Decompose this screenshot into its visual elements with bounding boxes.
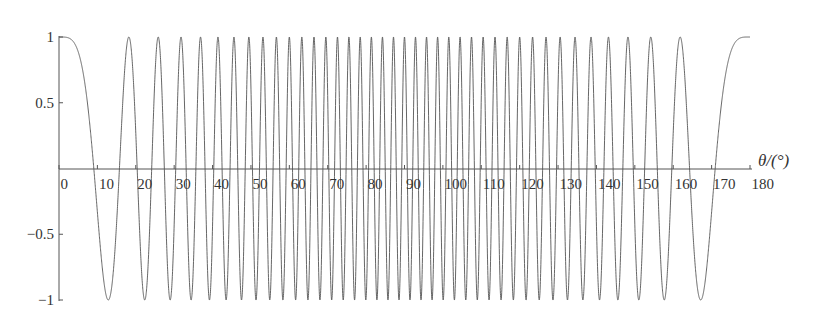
x-tick-label: 130 [560, 176, 583, 192]
x-tick-label: 160 [675, 176, 698, 192]
x-tick-label: 170 [713, 176, 736, 192]
x-tick-label: 60 [291, 176, 306, 192]
x-tick-label: 150 [636, 176, 659, 192]
x-tick-label: 140 [598, 176, 621, 192]
y-tick-label: 0.5 [35, 95, 54, 111]
x-tick-label: 180 [752, 176, 775, 192]
x-tick-label: 90 [406, 176, 421, 192]
x-tick-label: 100 [444, 176, 467, 192]
x-tick-label: 30 [176, 176, 191, 192]
x-tick-label: 120 [521, 176, 544, 192]
chart-plot: 0102030405060708090100110120130140150160… [0, 0, 821, 331]
x-tick-label: 20 [137, 176, 152, 192]
y-tick-label: −1 [38, 292, 54, 308]
x-axis-title: θ/(°) [758, 151, 790, 170]
x-tick-label: 50 [252, 176, 267, 192]
x-tick-label: 40 [214, 176, 229, 192]
x-tick-label: 110 [483, 176, 505, 192]
x-tick-label: 70 [329, 176, 344, 192]
y-tick-label: 1 [47, 29, 55, 45]
x-tick-label: 0 [61, 176, 69, 192]
y-ticks: 10.5−0.5−1 [27, 29, 63, 308]
y-tick-label: −0.5 [27, 226, 54, 242]
x-tick-label: 80 [368, 176, 383, 192]
x-tick-label: 10 [99, 176, 114, 192]
